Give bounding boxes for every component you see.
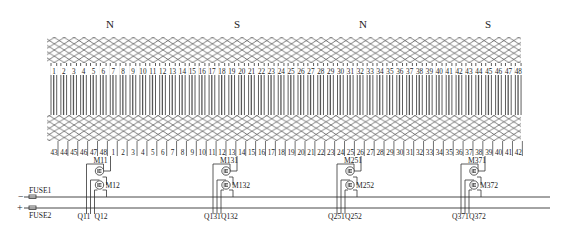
bottom-slot-label: 16 <box>258 149 266 157</box>
top-slot-label: 33 <box>367 68 375 76</box>
lower-switch-label: M252 <box>356 181 374 190</box>
bottom-slot-label: 14 <box>238 149 246 157</box>
lower-switch-label: M372 <box>480 181 498 190</box>
q-left-label: Q131 <box>204 212 221 221</box>
pole-label: S <box>485 18 491 30</box>
half-bridge: M11M12Q11Q12 <box>78 156 121 221</box>
top-slot-label: 1 <box>52 68 56 76</box>
pole-label: N <box>106 18 114 30</box>
top-slot-label: 36 <box>396 68 404 76</box>
upper-switch-label: M131 <box>220 156 238 165</box>
top-slot-label: 48 <box>515 68 523 76</box>
top-slot-label: 34 <box>376 68 384 76</box>
top-slot-label: 24 <box>278 68 286 76</box>
winding-diagram: NSNS 12345678910111213141516171819202122… <box>0 0 568 233</box>
top-slot-label: 19 <box>228 68 236 76</box>
bottom-slot-label: 33 <box>426 149 434 157</box>
bottom-slot-label: 32 <box>416 149 424 157</box>
bottom-slot-label: 8 <box>181 149 185 157</box>
bottom-slot-labels: 4344454647481234567891011121314151617181… <box>50 141 522 157</box>
top-slot-label: 20 <box>238 68 246 76</box>
top-slot-label: 17 <box>208 68 216 76</box>
q-right-label: Q132 <box>221 212 238 221</box>
bottom-slot-label: 39 <box>485 149 493 157</box>
top-slot-label: 4 <box>82 68 86 76</box>
top-slot-label: 38 <box>416 68 424 76</box>
top-slot-label: 22 <box>258 68 266 76</box>
negative-sign: − <box>18 191 24 202</box>
top-slot-label: 37 <box>406 68 414 76</box>
bottom-slot-label: 17 <box>268 149 276 157</box>
upper-switch-label: M251 <box>344 156 362 165</box>
top-slot-label: 18 <box>218 68 226 76</box>
bottom-slot-label: 6 <box>161 149 165 157</box>
bottom-slot-label: 34 <box>436 149 444 157</box>
top-slot-label: 11 <box>149 68 156 76</box>
bottom-slot-label: 4 <box>141 149 145 157</box>
bottom-slot-label: 30 <box>396 149 404 157</box>
top-slot-label: 6 <box>102 68 106 76</box>
top-slot-labels: 1234567891011121314151617181920212223242… <box>50 66 522 76</box>
bottom-slot-label: 23 <box>327 149 335 157</box>
pole-labels: NSNS <box>106 18 491 30</box>
top-slot-label: 14 <box>179 68 187 76</box>
top-slot-label: 45 <box>485 68 493 76</box>
top-slot-label: 29 <box>327 68 335 76</box>
bottom-slot-label: 28 <box>376 149 384 157</box>
bottom-slot-label: 5 <box>151 149 155 157</box>
bottom-slot-label: 36 <box>455 149 463 157</box>
top-slot-label: 23 <box>268 68 276 76</box>
bottom-slot-label: 1 <box>111 149 115 157</box>
half-bridge: M251M252Q251Q252 <box>328 156 374 221</box>
top-slot-label: 26 <box>297 68 305 76</box>
top-slot-label: 16 <box>199 68 207 76</box>
top-slot-label: 7 <box>111 68 115 76</box>
q-left-label: Q11 <box>78 212 91 221</box>
bottom-slot-label: 46 <box>80 149 88 157</box>
top-slot-label: 35 <box>386 68 394 76</box>
upper-switch-label: M371 <box>468 156 486 165</box>
bottom-slot-label: 31 <box>406 149 414 157</box>
half-bridge: M131M132Q131Q132 <box>204 156 250 221</box>
lower-switch-label: M12 <box>106 181 121 190</box>
pole-label: S <box>234 18 240 30</box>
q-right-label: Q372 <box>469 212 486 221</box>
fuse2-label: FUSE2 <box>29 211 52 220</box>
q-right-label: Q252 <box>345 212 362 221</box>
bottom-slot-label: 43 <box>50 149 58 157</box>
bottom-slot-label: 40 <box>495 149 503 157</box>
upper-switch-label: M11 <box>94 156 108 165</box>
top-slot-label: 5 <box>92 68 96 76</box>
q-left-label: Q371 <box>452 212 469 221</box>
bottom-slot-label: 41 <box>505 149 513 157</box>
top-slot-label: 32 <box>357 68 365 76</box>
top-slot-label: 30 <box>337 68 345 76</box>
top-slot-label: 42 <box>455 68 463 76</box>
bottom-slot-label: 10 <box>199 149 207 157</box>
q-right-label: Q12 <box>95 212 108 221</box>
bottom-slot-label: 45 <box>70 149 78 157</box>
bottom-slot-label: 9 <box>191 149 195 157</box>
top-slot-label: 40 <box>436 68 444 76</box>
bottom-slot-label: 11 <box>209 149 216 157</box>
lower-coil-band <box>47 115 521 141</box>
top-slot-label: 15 <box>189 68 197 76</box>
top-slot-label: 44 <box>475 68 483 76</box>
bottom-slot-label: 21 <box>307 149 315 157</box>
bottom-slot-label: 29 <box>386 149 394 157</box>
half-bridge: M371M372Q371Q372 <box>452 156 498 221</box>
bottom-slot-label: 35 <box>446 149 454 157</box>
top-slot-label: 13 <box>169 68 177 76</box>
top-slot-label: 3 <box>72 68 76 76</box>
bottom-slot-label: 42 <box>515 149 523 157</box>
top-slot-label: 25 <box>288 68 296 76</box>
top-slot-label: 47 <box>505 68 513 76</box>
bottom-slot-label: 44 <box>60 149 68 157</box>
bottom-slot-label: 15 <box>248 149 256 157</box>
bottom-slot-label: 19 <box>288 149 296 157</box>
top-slot-label: 27 <box>307 68 315 76</box>
upper-coil-band <box>47 37 521 63</box>
bottom-slot-label: 7 <box>171 149 175 157</box>
top-slot-label: 2 <box>62 68 66 76</box>
top-slot-label: 41 <box>446 68 454 76</box>
